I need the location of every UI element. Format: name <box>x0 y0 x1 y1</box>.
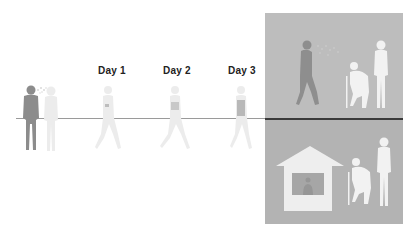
exposed-person-icon <box>44 87 58 152</box>
elderly-couple-home-icon <box>348 138 391 207</box>
infected-walker-icon <box>296 41 319 106</box>
day-1-walker-icon <box>95 86 121 149</box>
day-3-walker-icon <box>230 86 252 149</box>
elderly-couple-outdoor-icon <box>346 41 388 109</box>
day-2-walker-icon <box>160 86 190 149</box>
diagram-canvas: Day 1 Day 2 Day 3 <box>0 0 414 237</box>
figures-layer <box>0 0 414 237</box>
infection-particles-icon <box>317 45 339 56</box>
house-icon <box>276 146 344 211</box>
source-person-icon <box>23 86 39 151</box>
